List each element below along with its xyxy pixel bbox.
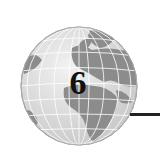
chapter-number: 6: [66, 66, 90, 100]
header-rule: [130, 113, 160, 116]
